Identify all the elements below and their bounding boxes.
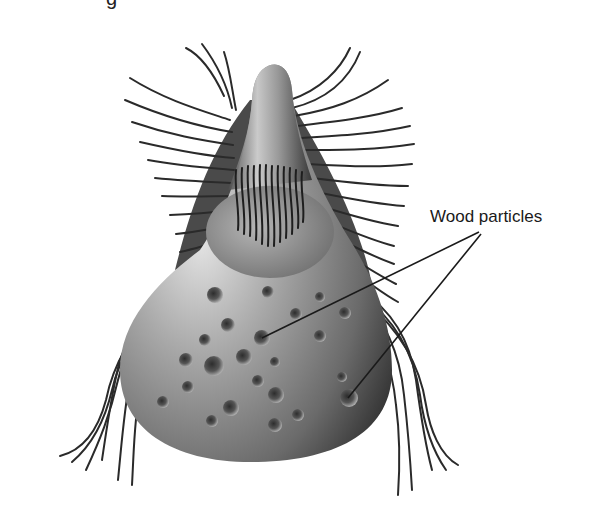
anterior-cap bbox=[206, 186, 334, 278]
wood-particles-label: Wood particles bbox=[430, 207, 542, 227]
figure-canvas: g bbox=[0, 0, 608, 516]
protist-illustration bbox=[0, 0, 608, 516]
